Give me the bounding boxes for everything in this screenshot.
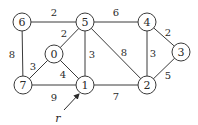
node-label: 6 [19, 16, 26, 29]
graph-node-0: 0 [45, 45, 63, 63]
weighted-graph-diagram: 2682383253497 65430712 r [0, 0, 198, 125]
edge-weight-label: 2 [61, 28, 67, 39]
graph-node-5: 5 [76, 13, 94, 31]
graph-node-6: 6 [13, 13, 31, 31]
graph-node-4: 4 [138, 13, 156, 31]
node-label: 4 [144, 16, 151, 29]
node-label: 3 [178, 46, 185, 59]
edge-weight-label: 6 [113, 7, 119, 18]
node-label: 7 [20, 79, 27, 92]
edge-weight-label: 2 [165, 27, 171, 38]
edge-weight-label: 3 [150, 48, 156, 59]
edge-weight-label: 7 [113, 91, 119, 102]
root-indicator: r [55, 94, 79, 125]
edge-weight-label: 8 [9, 49, 15, 60]
graph-node-1: 1 [76, 76, 94, 94]
node-label: 1 [82, 79, 89, 92]
edge-weight-label: 8 [121, 47, 127, 58]
node-label: 5 [82, 16, 89, 29]
edge-weight-label: 5 [165, 70, 171, 81]
graph-node-2: 2 [138, 76, 156, 94]
node-label: 0 [51, 48, 58, 61]
node-label: 2 [144, 79, 151, 92]
edge-weight-label: 2 [51, 7, 57, 18]
edge-weight-label: 3 [30, 61, 36, 72]
root-arrow-icon [64, 94, 79, 110]
edge-weight-label: 3 [89, 49, 95, 60]
edge-weight-label: 4 [60, 69, 66, 80]
root-label: r [55, 112, 61, 125]
edge-weight-label: 9 [51, 92, 57, 103]
graph-node-7: 7 [14, 76, 32, 94]
graph-node-3: 3 [172, 43, 190, 61]
graph-nodes: 65430712 [13, 13, 190, 94]
